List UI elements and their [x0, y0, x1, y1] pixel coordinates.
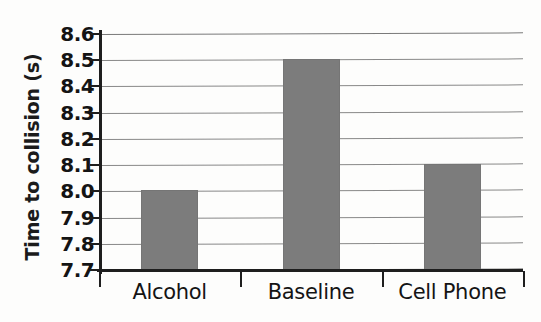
- gridline: [99, 32, 523, 35]
- x-axis-spine: [97, 269, 523, 272]
- y-axis-tick-mark: [90, 59, 101, 61]
- y-axis-spine: [99, 30, 102, 274]
- y-axis-tick-label: 8.5: [36, 48, 94, 72]
- plot-area: [99, 34, 523, 270]
- y-axis-tick-label: 7.9: [36, 206, 94, 230]
- y-axis-tick-mark: [90, 33, 101, 35]
- y-axis-tick-label: 8.4: [36, 74, 94, 98]
- x-axis-separator: [382, 271, 384, 287]
- y-axis-tick-mark: [90, 190, 101, 192]
- y-axis-tick-label: 8.2: [36, 127, 94, 151]
- y-axis-tick-label: 8.3: [36, 101, 94, 125]
- bar-alcohol: [141, 190, 198, 270]
- y-axis-tick-label: 8.1: [36, 153, 94, 177]
- y-axis-tick-label: 7.7: [36, 258, 94, 282]
- x-axis-separator: [99, 271, 101, 287]
- bar-cell-phone: [424, 164, 481, 270]
- bar-chart-figure: Time to collision (s) 8.68.58.48.38.28.1…: [0, 0, 541, 322]
- x-axis-separator: [523, 271, 525, 287]
- x-axis-tick-label: Cell Phone: [362, 280, 541, 304]
- y-axis-tick-label: 7.8: [36, 232, 94, 256]
- y-axis-tick-mark: [90, 217, 101, 219]
- bar-baseline: [283, 59, 340, 270]
- y-axis-tick-labels: 8.68.58.48.38.28.18.07.97.87.7: [32, 0, 94, 322]
- y-axis-tick-mark: [90, 112, 101, 114]
- y-axis-tick-mark: [90, 243, 101, 245]
- y-axis-tick-mark: [90, 138, 101, 140]
- y-axis-tick-mark: [90, 85, 101, 87]
- y-axis-tick-label: 8.0: [36, 179, 94, 203]
- y-axis-tick-mark: [90, 164, 101, 166]
- x-axis-separator: [240, 271, 242, 287]
- y-axis-tick-label: 8.6: [36, 22, 94, 46]
